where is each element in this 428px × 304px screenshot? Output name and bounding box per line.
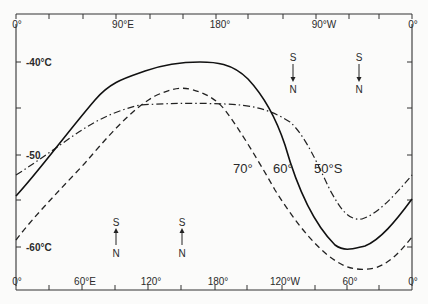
top-label-90e: 90°E	[112, 19, 134, 30]
arrow-n-to-s-90e: S N	[112, 217, 119, 259]
bottom-label-180: 180°	[208, 276, 229, 287]
bottom-label-120w: 120°W	[270, 276, 301, 287]
y-label-minus40: -40°C	[26, 57, 52, 68]
label-70: 70°	[233, 161, 253, 176]
y-label-minus50: -50	[26, 150, 41, 161]
series-50s-dashdot-line	[16, 103, 412, 219]
bottom-label-0: 0°	[12, 276, 22, 287]
svg-text:N: N	[178, 248, 185, 259]
top-label-0-right: 0°	[408, 19, 418, 30]
series-70s-dashed-line	[16, 88, 412, 269]
bottom-label-60e: 60°E	[74, 276, 96, 287]
arrow-s-to-n-60w: S N	[355, 52, 362, 95]
svg-text:N: N	[289, 84, 296, 95]
top-label-180: 180°	[210, 19, 231, 30]
top-label-90w: 90°W	[312, 19, 337, 30]
series-60s-solid-line	[16, 62, 412, 249]
svg-text:S: S	[356, 52, 363, 63]
chart-canvas: 0° 90°E 180° 90°W 0° 0° 60°E 120° 180° 1…	[0, 0, 428, 304]
arrow-s-to-n-120w: S N	[289, 52, 296, 95]
svg-text:N: N	[355, 84, 362, 95]
label-50s: 50°S	[314, 161, 343, 176]
top-label-0: 0°	[12, 19, 22, 30]
y-label-minus60: -60°C	[26, 242, 52, 253]
svg-text:S: S	[113, 217, 120, 228]
label-60: 60°	[273, 161, 293, 176]
bottom-label-120: 120°	[141, 276, 162, 287]
svg-text:S: S	[290, 52, 297, 63]
arrow-n-to-s-150e: S N	[178, 217, 185, 259]
y-axis-ticks	[16, 62, 412, 247]
bottom-label-60: 60°	[342, 276, 357, 287]
svg-text:N: N	[112, 248, 119, 259]
svg-text:S: S	[179, 217, 186, 228]
bottom-label-0-right: 0°	[408, 276, 418, 287]
